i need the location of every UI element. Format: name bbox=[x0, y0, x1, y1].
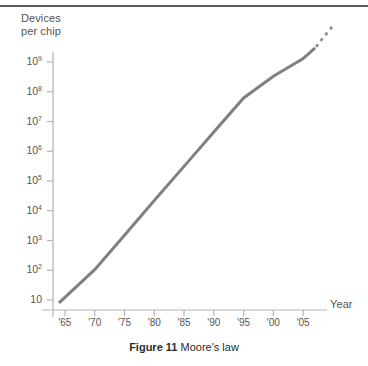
data-series-line bbox=[59, 48, 315, 303]
data-series-line bbox=[317, 28, 331, 46]
x-axis-tick-label: '70 bbox=[80, 317, 110, 328]
y-axis-tick-label: 10 bbox=[8, 293, 42, 305]
x-axis-tick-label: '05 bbox=[288, 317, 318, 328]
y-axis-tick-label: 106 bbox=[8, 144, 42, 156]
data-series-layer bbox=[59, 28, 331, 303]
figure-container: Devicesper chip Year 1010210310410510610… bbox=[0, 0, 368, 366]
x-axis-tick-label: '65 bbox=[50, 317, 80, 328]
y-axis-tick-label: 104 bbox=[8, 204, 42, 216]
y-axis-tick-label: 109 bbox=[8, 55, 42, 67]
figure-caption-text: Moore's law bbox=[181, 341, 239, 353]
y-axis-tick-label: 103 bbox=[8, 234, 42, 246]
x-axis-tick-label: '90 bbox=[199, 317, 229, 328]
y-axis-ticks bbox=[47, 62, 53, 300]
y-axis-tick-label: 105 bbox=[8, 174, 42, 186]
x-axis-tick-label: '95 bbox=[229, 317, 259, 328]
y-axis-tick-label: 108 bbox=[8, 85, 42, 97]
x-axis-tick-label: '80 bbox=[139, 317, 169, 328]
figure-caption: Figure 11 Moore's law bbox=[0, 341, 368, 353]
y-axis-tick-label: 107 bbox=[8, 115, 42, 127]
figure-caption-label: Figure 11 bbox=[129, 341, 177, 353]
x-axis-tick-label: '85 bbox=[169, 317, 199, 328]
plot-area bbox=[0, 0, 368, 366]
x-axis-ticks bbox=[65, 310, 303, 316]
x-axis-tick-label: '00 bbox=[258, 317, 288, 328]
x-axis-tick-label: '75 bbox=[109, 317, 139, 328]
y-axis-tick-label: 102 bbox=[8, 263, 42, 275]
